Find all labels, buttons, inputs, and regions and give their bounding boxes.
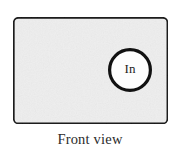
front-view-figure: In Front view: [0, 0, 180, 157]
inlet-port-circle: [110, 50, 151, 91]
figure-caption: Front view: [0, 131, 180, 148]
